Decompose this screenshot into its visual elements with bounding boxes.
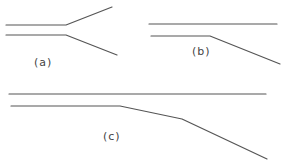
panel-b-label: (b) (192, 45, 211, 58)
panel-a-lower-line (6, 35, 117, 55)
panel-c-lower-line (11, 106, 267, 159)
panel-c-label: (c) (103, 130, 121, 143)
panel-b-lower-line (151, 36, 280, 64)
panel-a-label: (a) (34, 56, 52, 69)
panel-b: (b) (149, 24, 280, 64)
panel-c: (c) (9, 94, 267, 159)
branching-lines-diagram: (a) (b) (c) (0, 0, 281, 167)
panel-a-upper-line (6, 7, 112, 25)
panel-a: (a) (6, 7, 117, 69)
